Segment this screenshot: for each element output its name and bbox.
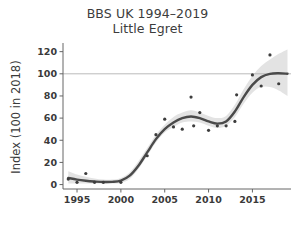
x-tick-1995: 1995 bbox=[64, 194, 90, 205]
y-tick-0: 0 bbox=[50, 179, 57, 190]
y-axis-label-text: Index (100 in 2018) bbox=[9, 60, 23, 173]
chart-figure: BBS UK 1994–2019 Little Egret 1995200020… bbox=[0, 0, 295, 225]
chart-plot-area: 19952000200520102015 020406080100120 Ind… bbox=[0, 0, 295, 225]
x-tick-2015: 2015 bbox=[239, 194, 265, 205]
y-tick-40: 40 bbox=[44, 135, 58, 146]
y-tick-60: 60 bbox=[44, 112, 58, 123]
confidence-band bbox=[68, 49, 287, 183]
y-tick-20: 20 bbox=[44, 157, 58, 168]
x-tick-2010: 2010 bbox=[195, 194, 222, 205]
y-tick-80: 80 bbox=[44, 90, 58, 101]
y-axis-label: Index (100 in 2018) bbox=[9, 60, 23, 173]
x-axis-tick-labels: 19952000200520102015 bbox=[64, 194, 266, 205]
x-tick-2005: 2005 bbox=[151, 194, 177, 205]
y-axis-tick-labels: 020406080100120 bbox=[37, 46, 57, 190]
x-tick-2000: 2000 bbox=[108, 194, 135, 205]
y-tick-100: 100 bbox=[37, 68, 57, 79]
y-tick-120: 120 bbox=[37, 46, 57, 57]
